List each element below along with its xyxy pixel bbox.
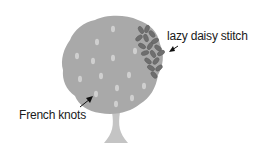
tree-trunk xyxy=(104,112,128,143)
lazy-daisy-arrow xyxy=(169,46,178,52)
french-knots-label: French knots xyxy=(19,108,86,122)
tree-illustration xyxy=(0,0,266,156)
lazy-daisy-label: lazy daisy stitch xyxy=(167,29,248,43)
